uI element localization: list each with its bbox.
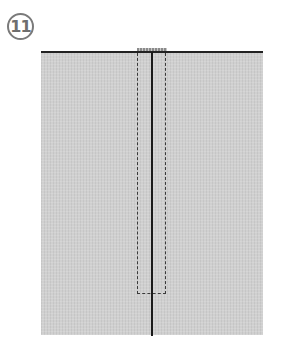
center-cut-line — [151, 52, 153, 336]
presser-foot-mark — [137, 48, 167, 51]
step-number: 11 — [10, 17, 30, 36]
step-number-badge: 11 — [7, 13, 34, 40]
